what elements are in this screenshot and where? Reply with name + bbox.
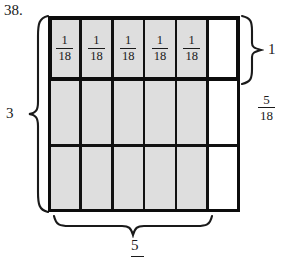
grid-cell	[82, 147, 111, 211]
grid-cell: 1 18	[50, 18, 79, 78]
fraction-grid: 1 18 1 18 1 18	[48, 16, 240, 212]
grid-cell	[209, 18, 238, 78]
bottom-brace-label-group: 5	[131, 238, 144, 257]
cell-fraction: 1 18	[88, 34, 105, 63]
grid-cell: 1 18	[82, 18, 111, 78]
fraction-denominator: 18	[120, 49, 137, 63]
grid-cell: 1 18	[177, 18, 206, 78]
grid-container: 1 18 1 18 1 18	[48, 16, 240, 212]
fraction-denominator: 18	[88, 49, 105, 63]
grid-cell	[50, 81, 79, 145]
grid-cell	[145, 81, 174, 145]
grid-cell: 1 18	[114, 18, 143, 78]
cell-fraction: 1 18	[183, 34, 200, 63]
problem-number: 38.	[4, 3, 23, 18]
result-fraction: 5 18	[258, 93, 275, 123]
grid-cell	[209, 147, 238, 211]
cell-fraction: 1 18	[120, 34, 137, 63]
right-brace-label: 1	[268, 42, 276, 57]
bottom-fraction-bar	[131, 256, 144, 257]
grid-cell	[209, 81, 238, 145]
cell-fraction: 1 18	[56, 34, 73, 63]
cell-fraction: 1 18	[152, 34, 169, 63]
grid-cell	[145, 147, 174, 211]
left-brace-label: 3	[6, 106, 14, 121]
grid-cell: 1 18	[145, 18, 174, 78]
bottom-brace-label: 5	[131, 237, 139, 253]
grid-cell	[177, 147, 206, 211]
right-brace-icon	[240, 14, 264, 86]
fraction-numerator: 1	[91, 34, 101, 48]
grid-cell	[114, 81, 143, 145]
bottom-brace-icon	[52, 214, 214, 238]
fraction-numerator: 1	[60, 34, 70, 48]
fraction-denominator: 18	[183, 49, 200, 63]
fraction-numerator: 1	[123, 34, 133, 48]
fraction-numerator: 1	[155, 34, 165, 48]
left-brace-icon	[26, 14, 50, 214]
fraction-denominator: 18	[152, 49, 169, 63]
grid-cell	[82, 81, 111, 145]
fraction-denominator: 18	[56, 49, 73, 63]
grid-cell	[50, 147, 79, 211]
fraction-denominator: 18	[258, 108, 275, 122]
fraction-numerator: 1	[187, 34, 197, 48]
fraction-numerator: 5	[261, 93, 272, 107]
fraction-area-model-figure: 38. 3 1 18 1 18 1	[0, 0, 287, 266]
grid-cell	[177, 81, 206, 145]
grid-cell	[114, 147, 143, 211]
right-result-fraction: 5 18	[258, 92, 275, 123]
